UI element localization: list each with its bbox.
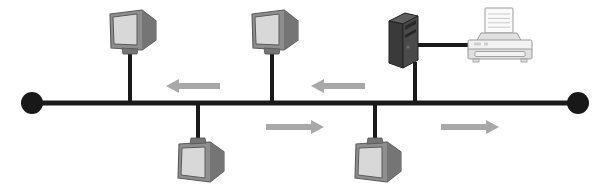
tower-power-led-icon	[406, 45, 409, 48]
monitor-stand	[264, 48, 280, 54]
monitor-screen	[181, 147, 205, 178]
monitor-body-side	[387, 142, 401, 182]
device-workstation-2: Workstation	[252, 10, 298, 54]
signal-left-2-icon: Signal direction left	[311, 79, 365, 93]
printer-control-button-icon	[484, 43, 488, 46]
monitor-icon-shape	[355, 138, 401, 182]
diagram-canvas: Bus network topology with shared printer…	[0, 0, 610, 191]
device-workstation-1: Workstation	[110, 10, 156, 54]
monitor-body-side	[142, 10, 156, 50]
monitor-stand	[122, 48, 138, 54]
monitor-body-side	[210, 142, 224, 182]
printer-paper	[485, 8, 513, 33]
bus-network-diagram: Bus network topology with shared printer…	[0, 0, 610, 191]
signal-right-1-shape	[266, 120, 324, 134]
monitor-icon-shape	[110, 10, 156, 54]
printer-output-slot	[475, 52, 525, 57]
printer-foot	[521, 59, 527, 62]
right-terminator-icon	[567, 92, 589, 114]
monitor-screen	[255, 14, 279, 45]
tower-left-face	[389, 21, 403, 68]
signal-left-1-icon: Signal direction left	[166, 79, 220, 93]
signal-right-1-icon: Signal direction right	[266, 120, 324, 134]
device-workstation-3: Workstation	[178, 138, 224, 182]
signal-right-2-icon: Signal direction right	[441, 120, 499, 134]
device-workstation-4: Workstation	[355, 138, 401, 182]
signal-left-2-shape	[311, 79, 365, 93]
monitor-body-side	[284, 10, 298, 50]
printer-foot	[473, 59, 479, 62]
device-network-printer: Printer	[468, 8, 532, 62]
monitor-screen	[113, 14, 137, 45]
monitor-icon-shape	[252, 10, 298, 54]
monitor-stand	[367, 138, 383, 144]
monitor-stand	[190, 138, 206, 144]
printer-control-button-icon	[474, 43, 481, 46]
left-terminator-icon	[21, 92, 43, 114]
signal-right-2-shape	[441, 120, 499, 134]
monitor-screen	[358, 147, 382, 178]
signal-left-1-shape	[166, 79, 220, 93]
device-print-server: Print server	[389, 13, 418, 68]
monitor-icon-shape	[178, 138, 224, 182]
